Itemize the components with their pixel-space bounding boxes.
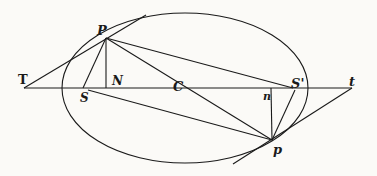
label-S: S bbox=[80, 92, 89, 104]
ellipse-diagram: P T N S C n S' t p bbox=[0, 0, 377, 176]
label-S-prime: S' bbox=[291, 77, 304, 90]
label-n: n bbox=[263, 91, 271, 102]
ordinate-pn bbox=[271, 88, 272, 140]
label-p: p bbox=[273, 143, 282, 156]
label-C: C bbox=[173, 80, 183, 93]
label-T: T bbox=[18, 73, 28, 86]
focal-PS2 bbox=[106, 38, 293, 88]
label-P: P bbox=[97, 24, 107, 37]
focal-Sp bbox=[88, 90, 272, 140]
diameter-Pp bbox=[106, 38, 272, 140]
label-t: t bbox=[349, 75, 355, 88]
tangent-at-p bbox=[233, 88, 352, 164]
label-N: N bbox=[112, 75, 123, 87]
diagram-canvas bbox=[0, 0, 377, 176]
